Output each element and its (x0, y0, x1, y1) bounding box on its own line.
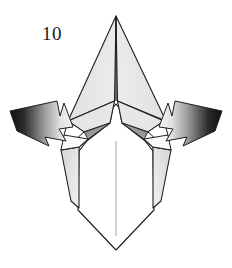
origami-diagram: 10 (0, 0, 232, 268)
step-number-label: 10 (42, 23, 62, 44)
origami-illustration: 10 (0, 0, 232, 268)
